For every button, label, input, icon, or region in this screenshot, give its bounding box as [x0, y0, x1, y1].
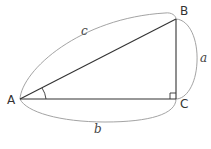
side-b-brace	[20, 99, 176, 122]
side-c-label: c	[81, 24, 88, 38]
right-angle-marker	[170, 93, 176, 99]
vertex-a-label: A	[7, 93, 16, 107]
side-c-brace	[20, 13, 176, 99]
triangle-diagram: A B C c a b	[0, 0, 211, 149]
side-a-label: a	[200, 51, 207, 65]
side-c	[20, 19, 176, 99]
vertex-c-label: C	[180, 97, 188, 111]
side-a-brace	[176, 19, 197, 99]
side-b-label: b	[94, 122, 102, 136]
angle-a-arc	[42, 88, 46, 99]
vertex-b-label: B	[180, 4, 188, 18]
